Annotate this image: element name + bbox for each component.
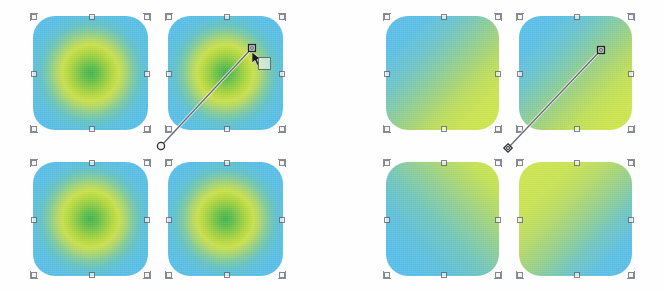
gradient-start-handle[interactable] xyxy=(157,142,164,149)
gradient-line[interactable] xyxy=(161,48,252,146)
gradient-end-handle-center xyxy=(600,49,602,51)
gradient-line[interactable] xyxy=(508,50,601,148)
gradient-stop-badge xyxy=(258,57,271,70)
gradient-end-handle-center xyxy=(251,47,253,49)
editor-canvas[interactable] xyxy=(0,0,663,292)
gradient-tool-overlay[interactable] xyxy=(0,0,663,292)
